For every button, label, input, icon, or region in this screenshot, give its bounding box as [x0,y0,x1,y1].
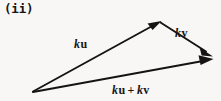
vector-addition-figure: (ii) ku kv ku+kv [0,0,221,101]
label-kv: kv [175,27,187,39]
vector-sum-arrowhead [199,55,214,65]
label-ku: ku [74,38,87,50]
label-ku-plus-kv: ku+kv [112,84,149,96]
figure-enumeration-label: (ii) [4,3,33,16]
label-kv-vector: v [181,26,187,40]
vector-ku-arrowhead [148,21,162,30]
label-sum-operator: + [125,83,137,97]
label-ku-vector: u [80,37,87,51]
label-sum-vector-2: v [143,83,149,97]
vector-kv-arrowhead [200,48,213,57]
